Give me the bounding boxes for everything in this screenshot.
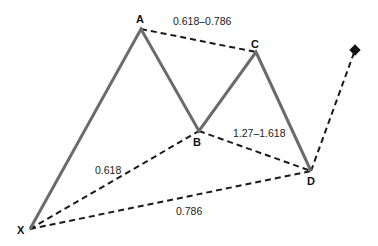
ratio-label-ac: 0.618–0.786 (173, 15, 232, 27)
point-label-b: B (193, 136, 201, 148)
dashed-line-x-d (30, 171, 311, 229)
ratio-label-xd: 0.786 (176, 205, 202, 217)
point-label-d: D (307, 175, 315, 187)
point-label-c: C (251, 38, 259, 50)
dashed-line-a-c (141, 29, 256, 52)
pattern-canvas: A B C D X 0.618–0.786 0.618 1.27–1.618 0… (0, 0, 378, 246)
ratio-label-xb: 0.618 (95, 164, 121, 176)
target-diamond-icon (349, 44, 360, 55)
ratio-label-bd: 1.27–1.618 (233, 127, 286, 139)
point-label-a: A (136, 13, 144, 25)
dashed-line-d-target (311, 50, 355, 171)
dashed-line-x-b (30, 131, 199, 229)
harmonic-pattern-diagram: A B C D X 0.618–0.786 0.618 1.27–1.618 0… (0, 0, 378, 246)
point-label-x: X (17, 224, 25, 236)
